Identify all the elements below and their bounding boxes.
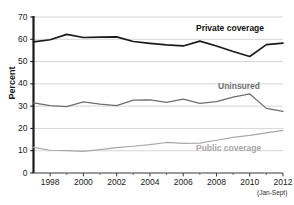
y-axis-tick-label: 60 (8, 35, 28, 44)
x-axis-tick-label: 2012 (266, 178, 294, 187)
series-label-public: Public coverage (196, 143, 261, 153)
y-axis-tick-label: 20 (8, 124, 28, 133)
series-line-uninsured (34, 94, 284, 111)
x-axis-note-label: (Jan-Sept) (257, 189, 287, 196)
x-axis-tick-label: 2004 (133, 178, 167, 187)
series-line-private-coverage (34, 34, 284, 56)
series-label-private: Private coverage (196, 23, 264, 33)
y-axis-tick-label: 70 (8, 13, 28, 22)
x-axis-tick-label: 2000 (66, 178, 100, 187)
series-label-uninsured: Uninsured (218, 81, 260, 91)
chart-container: Percent 010203040506070 1998200020022004… (0, 0, 294, 205)
x-axis-tick-label: 1998 (33, 178, 67, 187)
y-axis-tick-label: 0 (8, 169, 28, 178)
x-axis-tick-label: 2006 (166, 178, 200, 187)
x-axis-tick-label: 2002 (100, 178, 134, 187)
y-axis-tick-label: 10 (8, 146, 28, 155)
y-axis-tick-label: 30 (8, 102, 28, 111)
y-axis-tick-label: 50 (8, 57, 28, 66)
x-axis-tick-label: 2010 (233, 178, 267, 187)
y-axis-tick-label: 40 (8, 79, 28, 88)
x-axis-tick-label: 2008 (199, 178, 233, 187)
